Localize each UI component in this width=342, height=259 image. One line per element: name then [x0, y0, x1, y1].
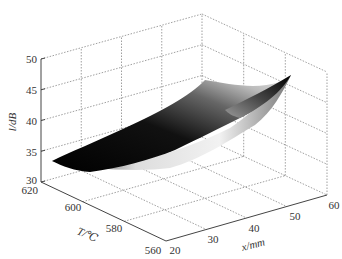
x-tick: 60 [329, 199, 341, 211]
x-tick: 50 [290, 210, 302, 222]
y-axis-label: T/℃ [75, 224, 100, 244]
x-tick: 40 [249, 222, 261, 234]
x-tick: 20 [170, 244, 182, 256]
x-tick: 30 [208, 233, 220, 245]
y-tick-labels: 620 600 580 560 [22, 184, 162, 256]
surface-plot: 50 45 40 35 30 620 600 580 560 20 30 40 … [0, 0, 342, 259]
surface [52, 75, 291, 172]
z-tick: 50 [26, 53, 38, 65]
x-axis-label: x/mm [239, 235, 266, 253]
y-tick: 620 [22, 184, 39, 196]
y-tick: 600 [65, 201, 82, 213]
z-axis-label: l/dB [6, 113, 18, 132]
z-tick: 40 [26, 115, 38, 127]
z-tick: 35 [26, 146, 38, 158]
z-tick-labels: 50 45 40 35 30 [26, 53, 38, 186]
y-tick: 560 [145, 244, 162, 256]
y-tick: 580 [106, 222, 123, 234]
z-tick: 45 [26, 84, 38, 96]
